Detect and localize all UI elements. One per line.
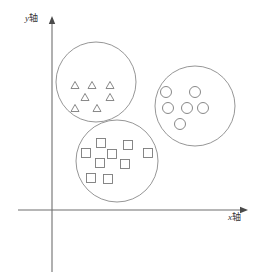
triangle-marker [106,93,114,100]
axes-group [18,16,248,272]
triangle-cluster-ring [56,42,136,122]
x-axis-label-text: 轴 [232,212,241,222]
circle-marker [163,103,174,114]
square-marker [108,150,117,159]
square-marker [82,149,91,158]
circle-cluster [155,66,235,146]
triangle-marker [81,93,89,100]
circle-marker [198,103,209,114]
circle-marker [161,87,172,98]
square-marker [121,160,130,169]
square-cluster-ring [76,120,158,202]
triangle-marker [106,81,114,88]
y-axis-label-text: 轴 [29,13,38,23]
clusters-group [56,42,235,202]
triangle-marker [93,104,101,111]
triangle-marker [71,104,79,111]
square-marker [97,139,106,148]
y-axis-arrowhead [49,16,55,24]
square-cluster [76,120,158,202]
triangle-marker [71,81,79,88]
circle-marker [182,103,193,114]
circle-marker [175,119,186,130]
cluster-scatter-figure: y轴 x轴 [0,0,263,280]
square-marker [124,141,133,150]
y-axis-label: y轴 [25,14,38,23]
plot-canvas [0,0,263,280]
square-marker [144,149,153,158]
square-marker [96,159,105,168]
square-marker [87,174,96,183]
circle-marker [190,87,201,98]
x-axis-arrowhead [240,207,248,213]
triangle-marker [88,81,96,88]
x-axis-label: x轴 [228,213,241,222]
triangle-cluster [56,42,136,122]
square-marker [104,175,113,184]
circle-cluster-ring [155,66,235,146]
